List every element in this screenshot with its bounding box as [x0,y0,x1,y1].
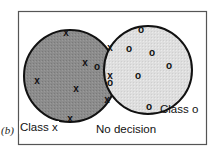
x-marker: x [34,75,40,86]
x-marker: x [73,83,79,94]
o-marker: o [94,61,100,72]
x-marker: x [67,113,73,124]
decision-regions-figure: xxxxxxxx oooooooo (b) Class x Class o No… [0,0,220,151]
panel-label: (b) [1,124,14,136]
o-marker: o [107,77,113,88]
o-marker: o [135,70,141,81]
x-marker: x [104,94,110,105]
o-marker: o [149,47,155,58]
x-marker: x [63,27,69,38]
o-marker: o [138,24,144,35]
x-marker: x [82,57,88,68]
o-marker: o [146,101,152,112]
class-x-label: Class x [19,121,59,134]
class-o-label: Class o [159,103,199,116]
x-marker: x [107,42,113,53]
no-decision-label: No decision [95,123,157,136]
o-marker: o [126,43,132,54]
o-marker: o [166,60,172,71]
